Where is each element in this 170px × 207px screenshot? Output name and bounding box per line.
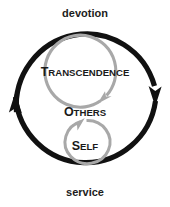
label-service: service xyxy=(66,186,104,198)
label-devotion: devotion xyxy=(62,7,108,19)
circular-diagram-svg: devotion TRANSCENDENCE OTHERS SELF servi… xyxy=(0,0,170,207)
label-self: SELF xyxy=(72,139,99,153)
label-others: OTHERS xyxy=(64,105,107,119)
label-transcendence: TRANSCENDENCE xyxy=(41,65,130,79)
diagram-root: devotion TRANSCENDENCE OTHERS SELF servi… xyxy=(0,0,170,207)
ring-outer-arrowhead-right xyxy=(149,86,162,107)
ring-self-arrowhead xyxy=(72,118,85,131)
